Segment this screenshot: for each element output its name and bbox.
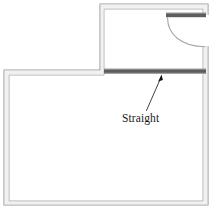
straight-annotation-label: Straight: [122, 112, 159, 124]
wall-body-shading: [4, 4, 208, 205]
wall-outline-inner: [9, 9, 203, 201]
straight-annotation-leader: [147, 75, 163, 111]
floorplan-canvas: Straight: [0, 0, 216, 208]
wall-outline-outer: [4, 4, 208, 205]
floor-plan-drawing: [0, 0, 216, 208]
door-opening-gap: [202, 15, 211, 46]
door-swing-arc: [168, 18, 206, 47]
door-lintel-thick: [166, 13, 206, 17]
straight-wall-thick: [104, 69, 206, 74]
